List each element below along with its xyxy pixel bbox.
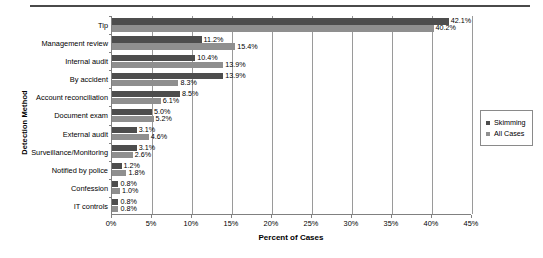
legend-label: Skimming bbox=[494, 118, 526, 127]
x-axis-tick-label: 10% bbox=[184, 219, 199, 228]
y-axis-tick-label: By accident bbox=[70, 75, 108, 84]
y-axis-tick-label: Notified by police bbox=[52, 165, 108, 174]
x-axis-title: Percent of Cases bbox=[111, 233, 471, 242]
chart-category-row: Document exam5.0%5.2% bbox=[112, 106, 471, 124]
y-axis-tick bbox=[109, 161, 112, 162]
bar-all-cases: 15.4% bbox=[112, 43, 235, 49]
x-axis-tick-label: 15% bbox=[224, 219, 239, 228]
bar-all-cases: 2.6% bbox=[112, 152, 133, 158]
bar-value-label: 8.3% bbox=[180, 79, 196, 86]
bar-chart-figure: Detection Method Tip42.1%40.2%Management… bbox=[0, 0, 543, 258]
bar-skimming: 0.8% bbox=[112, 181, 118, 187]
chart-category-row: Internal audit10.4%13.9% bbox=[112, 52, 471, 70]
y-axis-tick bbox=[109, 88, 112, 89]
y-axis-tick bbox=[109, 197, 112, 198]
x-axis-tick bbox=[431, 215, 432, 218]
bar-skimming: 1.2% bbox=[112, 163, 122, 169]
bar-all-cases: 0.8% bbox=[112, 206, 118, 212]
x-axis-tick bbox=[391, 215, 392, 218]
chart-category-row: By accident13.9%8.3% bbox=[112, 70, 471, 88]
y-axis-tick-label: Account reconciliation bbox=[36, 93, 108, 102]
y-axis-tick bbox=[109, 70, 112, 71]
y-axis-title: Detection Method bbox=[20, 63, 29, 183]
y-axis-tick-label: External audit bbox=[63, 129, 108, 138]
x-axis-tick-label: 0% bbox=[106, 219, 117, 228]
bar-all-cases: 40.2% bbox=[112, 25, 434, 31]
bar-value-label: 6.1% bbox=[163, 97, 179, 104]
chart-legend: SkimmingAll Cases bbox=[480, 110, 533, 146]
x-axis-tick-label: 20% bbox=[264, 219, 279, 228]
y-axis-tick bbox=[109, 125, 112, 126]
x-axis-tick-label: 5% bbox=[146, 219, 157, 228]
gridline bbox=[472, 16, 473, 214]
bar-all-cases: 1.8% bbox=[112, 170, 126, 176]
bar-value-label: 4.6% bbox=[151, 133, 167, 140]
bar-value-label: 0.8% bbox=[120, 206, 136, 213]
plot-area: Tip42.1%40.2%Management review11.2%15.4%… bbox=[111, 16, 471, 215]
bar-all-cases: 4.6% bbox=[112, 134, 149, 140]
bar-value-label: 13.9% bbox=[225, 72, 245, 79]
y-axis-tick-label: Document exam bbox=[54, 111, 108, 120]
y-axis-tick-label: Confession bbox=[71, 183, 108, 192]
bar-skimming: 11.2% bbox=[112, 36, 202, 42]
chart-category-row: Surveillance/Monitoring3.1%2.6% bbox=[112, 143, 471, 161]
y-axis-tick bbox=[109, 34, 112, 35]
x-axis-tick bbox=[191, 215, 192, 218]
bar-skimming: 3.1% bbox=[112, 145, 137, 151]
x-axis-tick bbox=[271, 215, 272, 218]
bar-all-cases: 8.3% bbox=[112, 80, 178, 86]
y-axis-tick-label: Management review bbox=[41, 39, 108, 48]
bar-value-label: 15.4% bbox=[237, 43, 257, 50]
y-axis-tick bbox=[109, 16, 112, 17]
chart-category-row: Tip42.1%40.2% bbox=[112, 16, 471, 34]
y-axis-tick bbox=[109, 106, 112, 107]
chart-category-row: Management review11.2%15.4% bbox=[112, 34, 471, 52]
bar-all-cases: 13.9% bbox=[112, 62, 223, 68]
bar-value-label: 13.9% bbox=[225, 61, 245, 68]
x-axis-tick bbox=[111, 215, 112, 218]
chart-category-row: External audit3.1%4.6% bbox=[112, 125, 471, 143]
bar-all-cases: 5.2% bbox=[112, 116, 154, 122]
legend-item: Skimming bbox=[486, 118, 526, 127]
chart-category-row: IT controls0.8%0.8% bbox=[112, 197, 471, 215]
legend-label: All Cases bbox=[494, 129, 524, 138]
y-axis-tick bbox=[109, 143, 112, 144]
x-axis-tick bbox=[311, 215, 312, 218]
bar-value-label: 1.8% bbox=[128, 170, 144, 177]
bar-all-cases: 1.0% bbox=[112, 188, 120, 194]
y-axis-tick-label: Internal audit bbox=[65, 57, 108, 66]
legend-swatch-icon bbox=[486, 121, 490, 125]
x-axis-tick bbox=[471, 215, 472, 218]
x-axis-tick bbox=[351, 215, 352, 218]
y-axis-tick-label: IT controls bbox=[74, 201, 108, 210]
legend-item: All Cases bbox=[486, 129, 526, 138]
legend-swatch-icon bbox=[486, 132, 490, 136]
x-axis-tick-label: 40% bbox=[424, 219, 439, 228]
bar-skimming: 42.1% bbox=[112, 18, 449, 24]
y-axis-tick bbox=[109, 52, 112, 53]
bar-value-label: 40.2% bbox=[436, 25, 456, 32]
bar-skimming: 10.4% bbox=[112, 55, 195, 61]
x-axis-tick-label: 45% bbox=[464, 219, 479, 228]
bar-value-label: 2.6% bbox=[135, 152, 151, 159]
bar-all-cases: 6.1% bbox=[112, 98, 161, 104]
y-axis-tick-label: Tip bbox=[98, 21, 108, 30]
chart-category-row: Confession0.8%1.0% bbox=[112, 179, 471, 197]
bar-value-label: 5.2% bbox=[156, 115, 172, 122]
x-axis-tick-label: 25% bbox=[304, 219, 319, 228]
bar-skimming: 3.1% bbox=[112, 127, 137, 133]
y-axis-tick bbox=[109, 179, 112, 180]
y-axis-tick-label: Surveillance/Monitoring bbox=[31, 147, 108, 156]
bar-skimming: 5.0% bbox=[112, 109, 152, 115]
bar-value-label: 8.5% bbox=[182, 90, 198, 97]
x-axis-tick-label: 30% bbox=[344, 219, 359, 228]
bar-skimming: 0.8% bbox=[112, 199, 118, 205]
x-axis-tick bbox=[231, 215, 232, 218]
chart-category-row: Notified by police1.2%1.8% bbox=[112, 161, 471, 179]
x-axis-tick bbox=[151, 215, 152, 218]
bar-value-label: 1.0% bbox=[122, 188, 138, 195]
chart-category-row: Account reconciliation8.5%6.1% bbox=[112, 88, 471, 106]
bar-value-label: 10.4% bbox=[197, 54, 217, 61]
bar-skimming: 13.9% bbox=[112, 73, 223, 79]
x-axis-tick-label: 35% bbox=[384, 219, 399, 228]
